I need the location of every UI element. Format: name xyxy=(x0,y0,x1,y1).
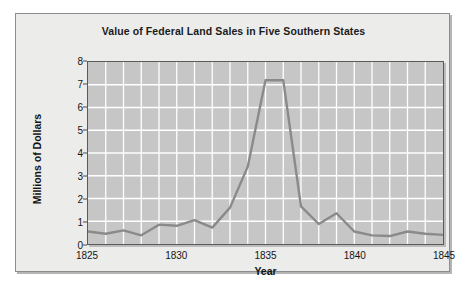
y-axis-tick-labels: 012345678 xyxy=(52,61,83,245)
y-tick-label: 2 xyxy=(53,194,83,205)
chart-title: Value of Federal Land Sales in Five Sout… xyxy=(16,25,451,37)
chart-figure-frame: Value of Federal Land Sales in Five Sout… xyxy=(15,13,450,272)
y-tick-label: 3 xyxy=(53,171,83,182)
plot-area xyxy=(87,61,444,245)
y-axis-title: Millions of Dollars xyxy=(31,94,43,224)
x-tick-label: 1845 xyxy=(433,250,455,261)
x-axis-tick-labels: 18251830183518401845 xyxy=(87,250,444,264)
y-tick-label: 0 xyxy=(53,240,83,251)
y-tick-label: 7 xyxy=(53,79,83,90)
x-tick-label: 1840 xyxy=(344,250,366,261)
y-tick-label: 8 xyxy=(53,56,83,67)
y-tick-label: 1 xyxy=(53,217,83,228)
x-tick-label: 1830 xyxy=(165,250,187,261)
x-tick-label: 1825 xyxy=(76,250,98,261)
data-series-line xyxy=(88,62,443,244)
x-tick-label: 1835 xyxy=(254,250,276,261)
y-tick-label: 5 xyxy=(53,125,83,136)
x-axis-title: Year xyxy=(87,265,444,277)
y-tick-label: 6 xyxy=(53,102,83,113)
y-tick-label: 4 xyxy=(53,148,83,159)
